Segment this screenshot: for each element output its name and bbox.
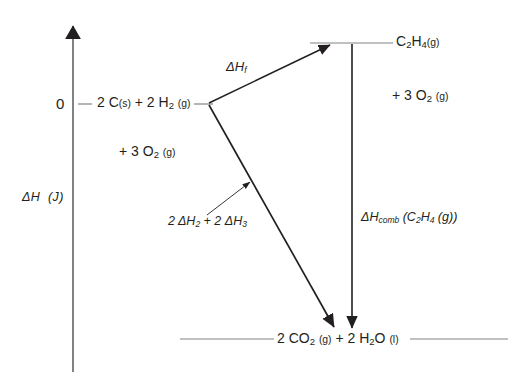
formation-enthalpy-arrow: [209, 45, 330, 103]
combustion-enthalpy-label: ΔHcomb (C2H4 (g)): [361, 211, 457, 224]
combustion-enthalpy-open: (C: [399, 210, 416, 224]
multistep-enthalpy-term1: 2 ΔH: [168, 214, 195, 228]
reactants-oxygen-label: + 3 O2 (g): [119, 144, 176, 158]
ethene-oxygen-phase: (g): [436, 91, 449, 102]
ethene-h-subscript: 4: [422, 39, 427, 50]
products-water-oxygen: O: [375, 330, 386, 346]
reactants-hydrogen-phase: (g): [178, 98, 191, 109]
multistep-enthalpy-term1-subscript: 2: [195, 219, 200, 229]
ethene-c-subscript: 2: [406, 39, 411, 50]
zero-tick-value: 0: [56, 96, 64, 111]
ethene-phase: (g): [427, 37, 440, 48]
reactants-label: 2 C(s) + 2 H2 (g): [97, 95, 191, 109]
combustion-enthalpy-h: H: [421, 210, 430, 224]
reactants-carbon-phase: (s): [119, 98, 131, 109]
formation-enthalpy-label: ΔHf: [226, 60, 247, 73]
reactants-oxygen-subscript: 2: [154, 149, 159, 160]
products-co2-subscript: 2: [310, 336, 315, 347]
y-axis-label-symbol: ΔH: [22, 190, 40, 204]
y-axis-label: ΔH (J): [22, 191, 64, 204]
combustion-enthalpy-phase: (g)): [434, 210, 457, 224]
products-co2: 2 CO: [277, 330, 310, 346]
diagram-vector-layer: [0, 0, 531, 381]
combustion-enthalpy-c-subscript: 2: [416, 215, 421, 225]
combustion-enthalpy-symbol: ΔH: [361, 210, 378, 224]
y-axis-label-units: (J): [48, 190, 64, 204]
formation-enthalpy-subscript: f: [244, 65, 246, 75]
products-label: 2 CO2 (g) + 2 H2O (l): [277, 331, 399, 345]
multistep-enthalpy-term2: + 2 ΔH: [200, 214, 242, 228]
reactants-hydrogen: + 2 H: [135, 94, 169, 110]
ethene-c: C: [396, 33, 406, 49]
multistep-enthalpy-term2-subscript: 3: [242, 219, 247, 229]
multistep-leader-arrow: [207, 182, 250, 215]
products-co2-phase: (g): [319, 334, 332, 345]
products-water-phase: (l): [389, 334, 398, 345]
combustion-enthalpy-h-subscript: 4: [430, 215, 435, 225]
ethene-oxygen-formula: + 3 O: [392, 87, 427, 103]
reactants-oxygen-formula: + 3 O: [119, 143, 154, 159]
formation-enthalpy-symbol: ΔH: [226, 59, 244, 74]
reactants-hydrogen-subscript: 2: [169, 100, 174, 111]
multistep-enthalpy-label: 2 ΔH2 + 2 ΔH3: [168, 215, 247, 228]
combustion-enthalpy-subscript: comb: [378, 215, 399, 225]
products-water-subscript: 2: [369, 336, 374, 347]
reactants-oxygen-phase: (g): [163, 147, 176, 158]
ethene-oxygen-subscript: 2: [427, 93, 432, 104]
enthalpy-diagram-canvas: ΔH (J) 0 2 C(s) + 2 H2 (g) + 3 O2 (g) C2…: [0, 0, 531, 381]
ethene-label: C2H4(g): [396, 34, 440, 48]
ethene-h: H: [411, 33, 421, 49]
reactants-carbon: 2 C: [97, 94, 119, 110]
products-water: + 2 H: [335, 330, 369, 346]
ethene-oxygen-label: + 3 O2 (g): [392, 88, 449, 102]
